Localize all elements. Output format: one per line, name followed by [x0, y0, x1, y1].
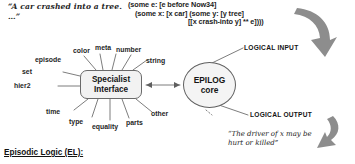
- specialist-interface-label-line2: Interface: [94, 85, 128, 95]
- epilog-core-label-line2: core: [201, 85, 219, 95]
- specialist-label-string: string: [146, 57, 165, 65]
- specialist-label-episode: episode: [35, 56, 61, 64]
- nl-output-quote: “The driver of x may be hurt or killed”: [228, 130, 320, 147]
- epilog-core-node: EPILOG core: [183, 62, 236, 108]
- figure-canvas: “A car crashed into a tree. …” (some e: …: [0, 0, 355, 164]
- specialist-label-set: set: [22, 68, 32, 76]
- specialist-label-time: time: [46, 108, 60, 116]
- figure-caption: Episodic Logic (EL):: [4, 148, 83, 157]
- el-form-line-3: [[x crash-into y] ** e]))): [128, 18, 350, 27]
- logical-input-label: LOGICAL INPUT: [244, 44, 298, 51]
- specialist-label-type: type: [69, 118, 83, 126]
- specialist-label-hier2: hier2: [14, 82, 30, 90]
- output-curved-arrow: [317, 116, 338, 148]
- nl-input-quote: “A car crashed into a tree. …”: [8, 2, 126, 21]
- specialist-label-parts: parts: [126, 119, 143, 127]
- specialist-label-equality: equality: [92, 123, 118, 131]
- specialist-label-number: number: [116, 46, 141, 54]
- specialist-interface-node: Specialist Interface: [80, 70, 142, 99]
- specialist-interface-label-line1: Specialist: [92, 75, 130, 85]
- logical-output-label: LOGICAL OUTPUT: [250, 111, 312, 118]
- epilog-core-label-line1: EPILOG: [194, 75, 226, 85]
- el-logical-form: (some e: [e before Now34] (some x: [x ca…: [128, 1, 350, 27]
- specialist-label-meta: meta: [95, 44, 111, 52]
- specialist-label-other: other: [151, 110, 168, 118]
- bidirectional-arrowheads: [146, 82, 180, 88]
- specialist-label-color: color: [73, 47, 90, 55]
